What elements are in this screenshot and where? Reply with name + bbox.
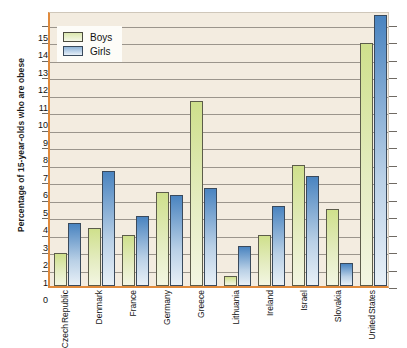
chart-legend: Boys Girls xyxy=(57,26,122,62)
y-tick-label: 4 xyxy=(26,225,48,235)
bar-france-girls xyxy=(136,216,149,286)
bar-germany-girls xyxy=(170,195,183,286)
x-tick-label: UnitedStates xyxy=(358,290,386,342)
gridline xyxy=(50,97,388,98)
y-tick-label: 13 xyxy=(26,68,48,78)
right-tick-mark xyxy=(389,148,397,149)
y-tick-label: 3 xyxy=(26,243,48,253)
x-axis-category-labels: CzechRepublicDenmarkFranceGermanyGreeceL… xyxy=(48,290,389,342)
legend-label-boys: Boys xyxy=(90,32,112,43)
right-tick-mark xyxy=(389,78,397,79)
y-tick-label: 1 xyxy=(26,278,48,288)
right-tick-mark xyxy=(389,253,397,254)
right-axis-ticks xyxy=(389,12,398,288)
bar-czech-republic-girls xyxy=(68,223,81,286)
bar-israel-boys xyxy=(292,165,305,286)
y-tick-label: 0 xyxy=(26,295,48,305)
gridline xyxy=(50,62,388,63)
x-tick-label-line: Republic xyxy=(60,290,70,323)
x-tick-label: Greece xyxy=(187,290,215,342)
x-tick-label: Slovakia xyxy=(324,290,352,342)
x-tick-label: Lithuania xyxy=(222,290,250,342)
gridline xyxy=(50,114,388,115)
y-tick-label: 12 xyxy=(26,85,48,95)
right-tick-mark xyxy=(389,201,397,202)
bar-germany-boys xyxy=(156,192,169,286)
x-tick-label-line: United xyxy=(367,315,377,340)
right-tick-mark xyxy=(389,288,397,289)
bar-lithuania-girls xyxy=(238,246,251,286)
right-tick-mark xyxy=(389,236,397,237)
x-tick-label: CzechRepublic xyxy=(51,290,79,342)
right-tick-mark xyxy=(389,218,397,219)
legend-swatch-boys xyxy=(63,32,83,42)
gridline xyxy=(50,149,388,150)
bar-united-states-boys xyxy=(360,43,373,286)
x-tick-label-line: Czech xyxy=(60,324,70,348)
x-tick-label-line: States xyxy=(367,290,377,314)
y-tick-label: 5 xyxy=(26,208,48,218)
legend-swatch-girls xyxy=(63,46,83,56)
right-tick-mark xyxy=(389,26,397,27)
x-tick-label: France xyxy=(119,290,147,342)
y-tick-label: 8 xyxy=(26,155,48,165)
bar-lithuania-boys xyxy=(224,276,237,286)
legend-label-girls: Girls xyxy=(90,46,111,57)
bar-czech-republic-boys xyxy=(54,253,67,286)
x-tick-label: Germany xyxy=(153,290,181,342)
bar-slovakia-girls xyxy=(340,263,353,286)
x-tick-label: Ireland xyxy=(256,290,284,342)
y-tick-label: 15 xyxy=(26,33,48,43)
bar-slovakia-boys xyxy=(326,209,339,286)
y-tick-label: 11 xyxy=(26,103,48,113)
y-tick-label: 14 xyxy=(26,50,48,60)
bar-denmark-boys xyxy=(88,228,101,286)
y-tick-label: 6 xyxy=(26,190,48,200)
gridline xyxy=(50,132,388,133)
x-tick-label: Denmark xyxy=(85,290,113,342)
legend-item-boys: Boys xyxy=(63,30,112,44)
bar-ireland-boys xyxy=(258,235,271,286)
right-tick-mark xyxy=(389,131,397,132)
right-tick-mark xyxy=(389,271,397,272)
bar-israel-girls xyxy=(306,176,319,286)
bar-france-boys xyxy=(122,235,135,286)
bar-greece-boys xyxy=(190,101,203,286)
right-tick-mark xyxy=(389,96,397,97)
y-axis-ticks: 0123456789101112131415 xyxy=(22,12,48,288)
bar-greece-girls xyxy=(204,188,217,286)
bar-denmark-girls xyxy=(102,171,115,286)
right-tick-mark xyxy=(389,113,397,114)
right-tick-mark xyxy=(389,43,397,44)
y-tick-label: 10 xyxy=(26,120,48,130)
right-tick-mark xyxy=(389,183,397,184)
gridline xyxy=(50,79,388,80)
bar-united-states-girls xyxy=(374,15,387,286)
y-tick-label: 7 xyxy=(26,173,48,183)
gridline xyxy=(50,167,388,168)
right-tick-mark xyxy=(389,61,397,62)
x-tick-label: Israel xyxy=(290,290,318,342)
y-tick-label: 9 xyxy=(26,138,48,148)
bar-ireland-girls xyxy=(272,206,285,286)
y-tick-label: 2 xyxy=(26,260,48,270)
legend-item-girls: Girls xyxy=(63,44,112,58)
right-tick-mark xyxy=(389,166,397,167)
